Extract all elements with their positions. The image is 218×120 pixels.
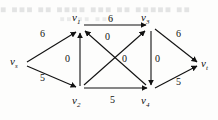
edge-label-v4-v1: 0 <box>122 54 127 64</box>
edge-label-v4-vt: 5 <box>176 77 181 87</box>
edge-label-v2-v1: 0 <box>65 54 70 64</box>
edge-label-v3-v4: 0 <box>155 54 160 64</box>
edge-v2-v3 <box>84 31 145 85</box>
edge-label-v1-v3: 6 <box>108 14 113 24</box>
node-label-v4: v4 <box>141 95 149 109</box>
node-label-v2: v2 <box>72 95 80 109</box>
node-label-v3: v3 <box>141 12 149 26</box>
edge-label-vs-v2: 5 <box>40 73 45 83</box>
edge-v4-v1 <box>85 31 146 85</box>
edge-vs-v2 <box>27 66 76 87</box>
flow-network-figure: ■ ■■■ ■■ ■■■■ ■■■ ■■ ■■■■■ ■■ ■■ ■■ ■■■ … <box>0 0 218 120</box>
edge-label-v2-v4: 5 <box>110 95 115 105</box>
node-label-v1: v1 <box>72 12 80 26</box>
edge-label-vs-v1: 6 <box>40 29 45 39</box>
node-label-vt: vt <box>201 58 208 72</box>
edge-label-v3-vt: 6 <box>176 29 181 39</box>
node-label-vs: vs <box>10 56 18 70</box>
edge-label-v2-v3: 0 <box>105 32 110 42</box>
